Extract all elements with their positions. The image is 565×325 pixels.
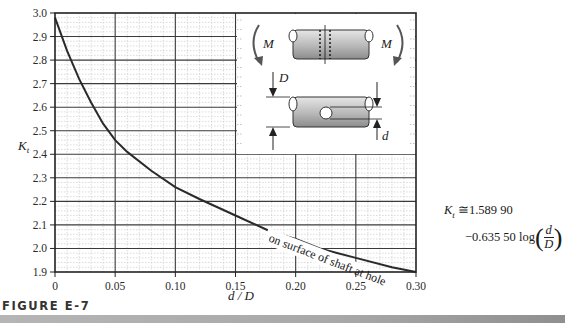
fraction-numerator: d [544,224,554,238]
moment-label-right: M [380,36,393,51]
caption-rule [0,315,565,323]
y-tick-label: 2.6 [33,101,48,113]
x-tick-label: 0.05 [105,280,125,292]
formula-approx: ≅ [458,203,469,217]
formula-fraction: dD [544,224,554,251]
formula-constant: 1.589 90 [469,203,513,217]
x-tick-label: 0.25 [346,280,366,292]
y-tick-label: 2.7 [33,78,48,90]
y-tick-label: 2.3 [33,172,48,184]
y-axis-label: Kt [17,138,30,155]
x-tick-label: 0.10 [165,280,185,292]
y-tick-label: 2.1 [33,219,48,231]
formula-coefficient: −0.635 50 log [465,230,535,244]
x-tick-label: 0.20 [286,280,306,292]
hole-diameter-label: d [382,128,389,143]
x-axis-label: d / D [228,288,255,303]
figure-caption: FIGURE E-7 [2,299,90,313]
y-tick-label: 2.8 [33,54,48,66]
y-tick-label: 2.9 [33,31,48,43]
fraction-denominator: D [544,238,553,251]
y-tick-label: 1.9 [33,266,48,278]
x-tick-label: 0 [52,280,58,292]
y-tick-label: 2.2 [33,195,48,207]
stress-concentration-chart: MMDd on surface of shaft at hole 1.92.02… [0,0,565,325]
x-tick-label: 0.30 [406,280,426,292]
formula-line-2: −0.635 50 log(dD) [465,224,563,251]
formula-lhs-sub: t [452,210,455,220]
diameter-label: D [278,70,289,85]
moment-label-left: M [262,36,275,51]
y-tick-label: 3.0 [33,7,48,19]
formula: Kt ≅1.589 90 [444,202,513,220]
y-tick-label: 2.0 [33,242,48,254]
y-tick-label: 2.5 [33,125,48,137]
y-tick-label: 2.4 [33,148,48,160]
y-axis-ticks: 1.92.02.12.22.32.42.52.62.72.82.93.0 [33,7,55,278]
